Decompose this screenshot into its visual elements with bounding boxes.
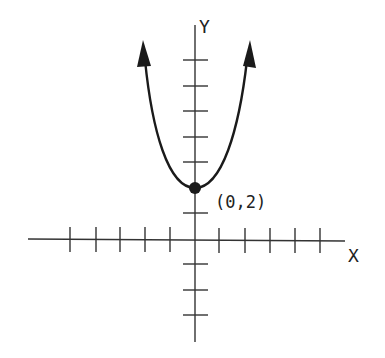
x-axis-label: X [348,245,359,266]
y-axis-label: Y [199,16,210,37]
parabola-curve [145,60,247,188]
vertex-point [189,182,201,194]
right-arrowhead-icon [243,40,256,68]
parabola-graph: (0,2) X Y [0,0,385,358]
x-axis [28,239,345,241]
point-label: (0,2) [215,192,266,212]
left-arrowhead-icon [137,40,151,67]
